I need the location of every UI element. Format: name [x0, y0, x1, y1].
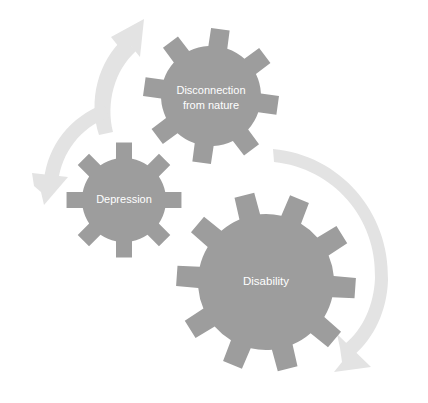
gear-depression[interactable]: Depression	[67, 143, 182, 258]
gear-disability[interactable]: Disability	[176, 193, 356, 371]
arrow-down-left-head	[32, 173, 68, 205]
diagram-canvas: Disconnection from nature Depression Dis…	[0, 0, 428, 403]
gear-disconnection-label-line1: Disconnection	[176, 84, 245, 96]
gear-disconnection-label-line2: from nature	[183, 99, 239, 111]
gear-disconnection-from-nature[interactable]: Disconnection from nature	[143, 28, 279, 164]
gear-disability-label: Disability	[243, 275, 289, 287]
gear-cycle-diagram: Disconnection from nature Depression Dis…	[0, 0, 428, 403]
gear-depression-label: Depression	[96, 193, 152, 205]
gear-disconnection-shape	[143, 28, 279, 164]
